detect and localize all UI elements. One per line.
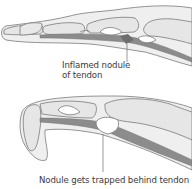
trapped-nodule-label: Nodule gets trapped behind tendon xyxy=(39,175,189,185)
trigger-finger-diagram xyxy=(0,0,192,189)
extended-finger-illustration xyxy=(2,6,193,66)
nodule-label-line1: Inflamed nodule xyxy=(62,60,130,70)
flexed-finger-illustration xyxy=(20,96,192,172)
nodule-label-line2: of tendon xyxy=(62,70,102,80)
